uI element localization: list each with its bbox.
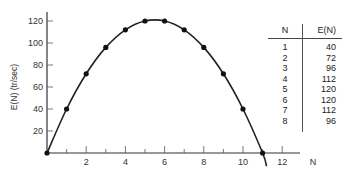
cell-n: 3 — [268, 63, 302, 74]
y-tick-label: 20 — [33, 126, 43, 136]
data-point — [240, 106, 245, 111]
table-divider — [302, 24, 303, 132]
data-point — [162, 18, 167, 23]
cell-n: 6 — [268, 95, 302, 106]
cell-en: 96 — [302, 116, 336, 127]
data-point — [44, 150, 49, 155]
table-row: 6120 — [268, 95, 342, 106]
table-header: N E(N) — [268, 22, 342, 39]
table-row: 4112 — [268, 74, 342, 85]
cell-en: 112 — [302, 105, 336, 116]
data-point — [182, 27, 187, 32]
x-axis-label: N — [310, 157, 317, 167]
x-tick-label: 10 — [238, 157, 248, 167]
cell-en: 40 — [302, 42, 336, 53]
x-tick-label: 2 — [84, 157, 89, 167]
y-tick-label: 120 — [28, 16, 43, 26]
header-n: N — [268, 25, 302, 35]
table-row: 272 — [268, 53, 342, 64]
y-tick-label: 100 — [28, 38, 43, 48]
cell-en: 120 — [302, 84, 336, 95]
table-row: 896 — [268, 116, 342, 127]
x-tick-label: 8 — [201, 157, 206, 167]
y-tick-label: 40 — [33, 104, 43, 114]
table-row: 140 — [268, 42, 342, 53]
cell-n: 7 — [268, 105, 302, 116]
y-tick-label: 80 — [33, 60, 43, 70]
cell-n: 5 — [268, 84, 302, 95]
cell-en: 112 — [302, 74, 336, 85]
x-tick-label: 6 — [162, 157, 167, 167]
cell-n: 1 — [268, 42, 302, 53]
table-row: 7112 — [268, 105, 342, 116]
y-tick-label: 60 — [33, 82, 43, 92]
table-row: 5120 — [268, 84, 342, 95]
table-row: 396 — [268, 63, 342, 74]
x-tick-label: 12 — [277, 157, 287, 167]
data-point — [260, 150, 265, 155]
cell-n: 8 — [268, 116, 302, 127]
data-point — [84, 71, 89, 76]
y-axis-label: E(N) (tr/sec) — [9, 64, 19, 110]
cell-n: 2 — [268, 53, 302, 64]
cell-n: 4 — [268, 74, 302, 85]
x-tick-label: 4 — [123, 157, 128, 167]
series-line — [47, 20, 267, 166]
cell-en: 96 — [302, 63, 336, 74]
cell-en: 120 — [302, 95, 336, 106]
data-point — [221, 71, 226, 76]
header-en: E(N) — [302, 25, 336, 35]
cell-en: 72 — [302, 53, 336, 64]
data-point — [103, 45, 108, 50]
data-point — [123, 27, 128, 32]
data-table: N E(N) 1402723964112512061207112896 — [268, 22, 342, 126]
data-point — [201, 45, 206, 50]
data-point — [142, 18, 147, 23]
data-point — [64, 106, 69, 111]
